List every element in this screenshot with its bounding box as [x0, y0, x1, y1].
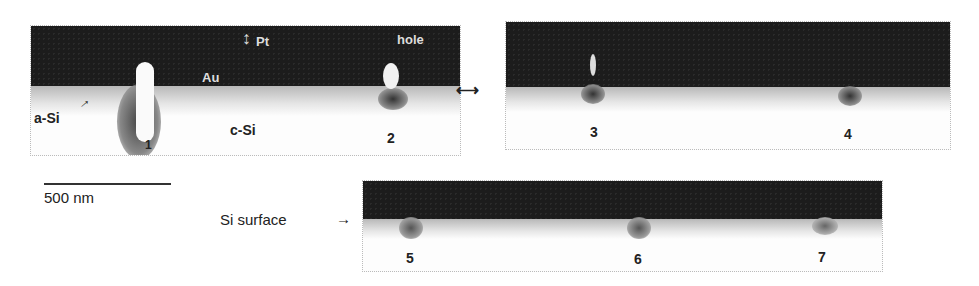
pt-layer — [506, 22, 950, 87]
scale-bar — [44, 183, 171, 185]
damage-region-3 — [581, 84, 605, 104]
defect-number-4: 4 — [844, 126, 852, 142]
damage-region-6 — [627, 217, 651, 239]
micrograph-panel-c: 5 6 7 — [362, 180, 883, 272]
damage-region-4 — [838, 86, 862, 106]
asi-label: a-Si — [34, 110, 60, 126]
defect-number-7: 7 — [818, 249, 826, 265]
csi-label: c-Si — [230, 122, 256, 138]
au-label: Au — [202, 70, 219, 85]
defect-number-6: 6 — [634, 251, 642, 267]
pt-label: Pt — [256, 34, 269, 49]
defect-number-2: 2 — [387, 130, 395, 146]
micrograph-panel-a: Pt ↕ hole Au c-Si 1 2 — [30, 25, 461, 156]
hole-label: hole — [397, 32, 424, 47]
void-3 — [590, 54, 596, 76]
pt-layer — [363, 181, 882, 219]
defect-number-5: 5 — [406, 250, 414, 266]
defect-number-3: 3 — [590, 124, 598, 140]
si-surface-label: Si surface — [220, 211, 287, 228]
micrograph-panel-b: 3 4 — [505, 21, 951, 150]
damage-region-2 — [378, 88, 408, 110]
double-arrow-icon: ⟷ — [456, 80, 479, 99]
damage-region-5 — [399, 217, 423, 239]
asi-layer — [363, 219, 882, 239]
scale-bar-label: 500 nm — [44, 189, 94, 206]
asi-layer — [506, 87, 950, 112]
hole-void — [383, 63, 399, 89]
pt-thickness-arrow: ↕ — [242, 28, 251, 49]
defect-number-1: 1 — [145, 138, 152, 152]
damage-region-7 — [812, 217, 838, 235]
si-surface-arrow: → — [336, 210, 351, 227]
void-1 — [136, 62, 154, 142]
